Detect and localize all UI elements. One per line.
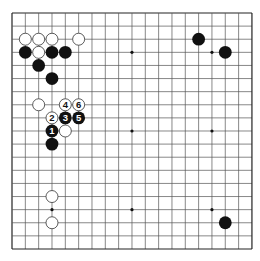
white-stone-disc [33,99,45,111]
black-stone-disc [19,46,32,59]
move-number-label: 2 [49,112,54,123]
star-point [130,129,133,132]
black-stone-disc [219,46,232,59]
black-stone[interactable] [19,46,32,59]
black-stone-disc [46,46,59,59]
white-stone[interactable] [19,33,31,45]
black-stone[interactable] [32,59,45,72]
black-stone[interactable] [46,72,59,85]
white-stone-move-2[interactable]: 2 [46,112,58,124]
black-stone-disc [219,216,232,229]
star-point [130,51,133,54]
white-stone-disc [46,217,58,229]
white-stone-disc [33,46,45,58]
white-stone-disc [73,33,85,45]
black-stone[interactable] [219,46,232,59]
white-stone[interactable] [73,33,85,45]
white-stone-disc [59,125,71,137]
black-stone[interactable] [192,33,205,46]
black-stone-disc [192,33,205,46]
black-stone-disc [46,138,59,151]
white-stone-disc [46,191,58,203]
black-stone[interactable] [46,138,59,151]
black-stone-move-5[interactable]: 5 [72,111,85,124]
star-point [210,51,213,54]
go-board[interactable]: 462351 [0,0,260,261]
white-stone[interactable] [33,46,45,58]
move-number-label: 4 [63,99,69,110]
white-stone[interactable] [46,33,58,45]
white-stone-disc [46,33,58,45]
white-stone[interactable] [33,99,45,111]
black-stone-disc [32,59,45,72]
white-stone-move-4[interactable]: 4 [59,99,71,111]
star-point [50,208,53,211]
star-point [210,129,213,132]
black-stone-disc [46,72,59,85]
white-stone[interactable] [59,125,71,137]
black-stone-move-3[interactable]: 3 [59,111,72,124]
black-stone[interactable] [46,46,59,59]
white-stone[interactable] [33,33,45,45]
black-stone-disc [59,46,72,59]
black-stone-move-1[interactable]: 1 [46,125,59,138]
black-stone[interactable] [59,46,72,59]
move-number-label: 5 [76,112,82,123]
star-point [130,208,133,211]
white-stone-disc [33,33,45,45]
white-stone-move-6[interactable]: 6 [73,99,85,111]
star-point [210,208,213,211]
move-number-label: 1 [49,125,55,136]
black-stone[interactable] [219,216,232,229]
move-number-label: 3 [63,112,68,123]
white-stone[interactable] [46,191,58,203]
white-stone-disc [19,33,31,45]
white-stone[interactable] [46,217,58,229]
move-number-label: 6 [76,99,81,110]
